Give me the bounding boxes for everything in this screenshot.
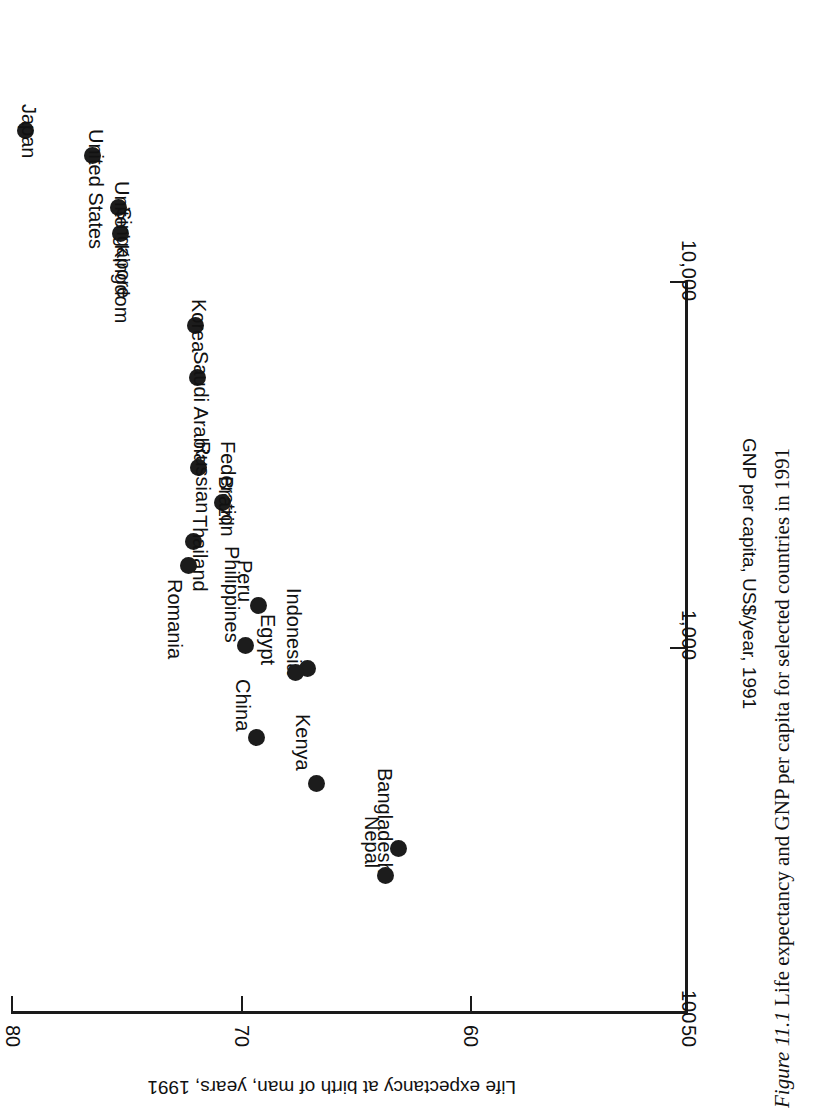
point-label-romania: Romania bbox=[163, 579, 186, 659]
point-label-egypt: Egypt bbox=[256, 614, 279, 665]
point-label-singapore: Singapore bbox=[112, 207, 135, 298]
figure-11-1: 10,000 1,000 100 80 70 60 50 GNP per cap… bbox=[0, 0, 819, 1114]
point-label-thailand: Thailand bbox=[188, 515, 211, 592]
point-label-nepal: Nepal bbox=[360, 816, 383, 868]
point-label-russian-federation-line1: Russian bbox=[191, 441, 213, 513]
data-point-kenya[interactable] bbox=[308, 775, 325, 792]
point-label-china: China bbox=[231, 679, 254, 731]
data-point-egypt[interactable] bbox=[287, 664, 304, 681]
tick-label-gnp-1000: 1,000 bbox=[677, 610, 700, 660]
tick-life-60 bbox=[470, 996, 472, 1012]
tick-label-life-70: 70 bbox=[230, 1025, 253, 1047]
life-expectancy-axis-line bbox=[11, 1011, 687, 1014]
scatter-plot: 10,000 1,000 100 80 70 60 50 GNP per cap… bbox=[0, 0, 819, 1114]
point-label-korea: Korea bbox=[187, 299, 210, 352]
tick-label-gnp-10000: 10,000 bbox=[677, 240, 700, 301]
figure-caption-text: Life expectancy and GNP per capita for s… bbox=[770, 448, 794, 1006]
x-axis-title: GNP per capita, US$/year, 1991 bbox=[738, 438, 760, 709]
figure-number: Figure 11.1 bbox=[770, 1011, 794, 1108]
life-axis-left-cap bbox=[11, 996, 13, 1012]
tick-label-gnp-100: 100 bbox=[677, 990, 700, 1023]
tick-label-life-50: 50 bbox=[677, 1025, 700, 1047]
point-label-philippines: Philippines bbox=[220, 546, 243, 643]
data-point-nepal[interactable] bbox=[377, 867, 394, 884]
data-point-romania[interactable] bbox=[180, 557, 197, 574]
point-label-brazil: Brazil bbox=[214, 476, 237, 526]
tick-label-life-60: 60 bbox=[459, 1025, 482, 1047]
point-label-japan: Japan bbox=[17, 104, 40, 159]
tick-life-70 bbox=[241, 996, 243, 1012]
tick-label-life-80: 80 bbox=[1, 1025, 24, 1047]
point-label-kenya: Kenya bbox=[291, 714, 314, 771]
point-label-indonesia: Indonesia bbox=[282, 588, 305, 675]
figure-caption: Figure 11.1 Life expectancy and GNP per … bbox=[770, 18, 795, 1108]
point-label-united-states: United States bbox=[84, 129, 107, 249]
y-axis-title: Life expectancy at birth of man, years, … bbox=[147, 1076, 516, 1098]
